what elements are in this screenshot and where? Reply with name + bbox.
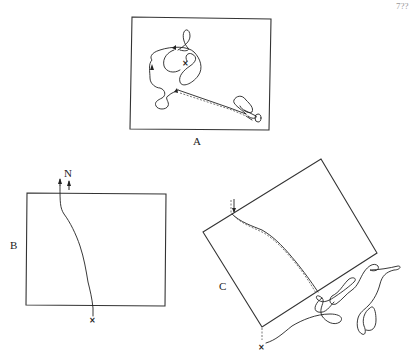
figure-c: × C (203, 159, 400, 352)
figure-a-goal-cluster (234, 96, 257, 120)
figure-b-label: B (10, 239, 17, 251)
figure-b: N × B (10, 167, 166, 325)
figure-c-track-inside (232, 214, 318, 292)
figure-b-frame (26, 193, 166, 306)
figure-a-label: A (193, 135, 201, 147)
figure-a-straight-run (178, 90, 246, 114)
figure-c-frame (203, 159, 377, 327)
figure-a-start-marker: × (182, 59, 189, 68)
figure-a: × A (130, 17, 271, 147)
figure-a-arrow-icon (150, 64, 154, 70)
figure-b-north-label: N (64, 167, 72, 179)
figure-canvas: 7?? × A N × B (0, 0, 414, 362)
figure-c-label: C (219, 280, 226, 292)
figure-a-track (150, 47, 201, 109)
figure-b-north-arrow-icon (67, 180, 71, 186)
figure-a-inner-curve (164, 50, 180, 72)
figure-b-start-marker: × (89, 316, 96, 325)
page-number: 7?? (396, 1, 409, 11)
figure-b-track (60, 186, 93, 316)
figure-c-dashed-track (234, 216, 316, 293)
figure-c-start-marker: × (258, 343, 265, 352)
figure-b-arrow-icon (58, 178, 62, 184)
